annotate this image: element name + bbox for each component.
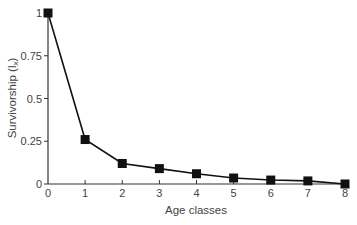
- y-axis-ticks: 00.250.50.751: [21, 7, 48, 190]
- data-point-marker: [192, 169, 201, 178]
- x-axis-title: Age classes: [165, 204, 227, 216]
- y-tick-label: 0.5: [27, 93, 42, 105]
- series-line: [48, 13, 345, 184]
- y-tick-label: 0: [36, 178, 42, 190]
- x-tick-label: 1: [82, 187, 88, 199]
- data-point-marker: [229, 174, 238, 183]
- data-point-marker: [303, 176, 312, 185]
- x-tick-label: 5: [231, 187, 237, 199]
- data-point-marker: [341, 180, 350, 189]
- axes: [48, 11, 349, 184]
- x-tick-label: 7: [305, 187, 311, 199]
- x-tick-label: 0: [45, 187, 51, 199]
- data-point-marker: [44, 9, 53, 18]
- y-tick-label: 1: [36, 7, 42, 19]
- x-tick-label: 4: [193, 187, 199, 199]
- data-point-marker: [155, 164, 164, 173]
- data-point-marker: [118, 159, 127, 168]
- survivorship-chart: 00.250.50.751 012345678 Age classes Surv…: [0, 0, 357, 225]
- data-series: [44, 9, 350, 189]
- x-tick-label: 8: [342, 187, 348, 199]
- data-point-marker: [266, 176, 275, 185]
- y-tick-label: 0.25: [21, 135, 42, 147]
- y-tick-label: 0.75: [21, 50, 42, 62]
- x-axis-ticks: 012345678: [45, 180, 348, 199]
- y-axis-title: Survivorship (lx): [6, 57, 20, 138]
- x-tick-label: 6: [268, 187, 274, 199]
- data-point-marker: [81, 135, 90, 144]
- x-tick-label: 2: [119, 187, 125, 199]
- x-tick-label: 3: [156, 187, 162, 199]
